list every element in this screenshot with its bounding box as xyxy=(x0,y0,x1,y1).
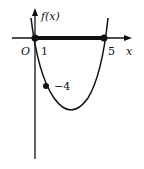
tick-label-one: 1 xyxy=(41,45,48,58)
tick-label-five: 5 xyxy=(108,45,115,58)
origin-point xyxy=(32,35,39,42)
point-value-label: −4 xyxy=(54,80,70,93)
point-minus-four xyxy=(43,83,49,89)
graph-figure: f(x) O 1 5 x −4 xyxy=(0,0,144,169)
y-axis-arrow-icon xyxy=(32,8,38,16)
y-axis-label: f(x) xyxy=(40,10,60,23)
parabola-curve xyxy=(31,18,108,110)
x-axis-arrow-icon xyxy=(124,35,132,41)
root-point-five xyxy=(101,35,108,42)
x-axis-label: x xyxy=(126,45,133,58)
origin-label: O xyxy=(21,45,30,58)
